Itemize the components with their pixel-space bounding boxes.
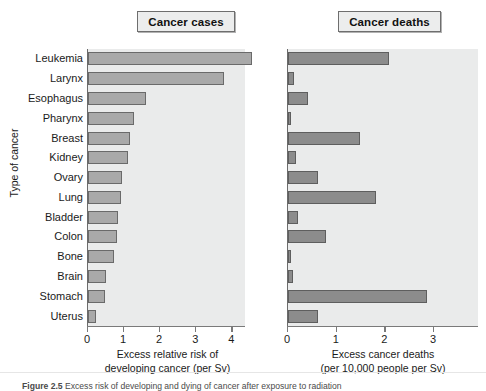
category-label-kidney: Kidney — [0, 151, 83, 164]
plot-area-cancer-deaths — [287, 49, 478, 326]
figure-caption-label: Figure 2.5 — [22, 381, 63, 391]
category-label-lung: Lung — [0, 191, 83, 204]
x-axis-title-deaths-line1: Excess cancer deaths — [283, 348, 483, 362]
category-label-leukemia: Leukemia — [0, 52, 83, 65]
bar-pharynx — [288, 112, 291, 125]
bar-pharynx — [88, 112, 134, 125]
figure-radiation-cancer-risk: Cancer cases Cancer deaths Type of cance… — [0, 0, 486, 391]
x-tick-label-3: 3 — [185, 333, 205, 346]
x-tick-label-0: 0 — [77, 333, 97, 346]
category-label-esophagus: Esophagus — [0, 92, 83, 105]
bar-breast — [88, 132, 130, 145]
x-tick-mark-0 — [87, 327, 88, 332]
x-tick-label-1: 1 — [326, 333, 346, 346]
x-tick-mark-4 — [231, 327, 232, 332]
bar-stomach — [288, 290, 427, 303]
bar-stomach — [88, 290, 105, 303]
category-label-pharynx: Pharynx — [0, 112, 83, 125]
x-tick-label-4: 4 — [221, 333, 241, 346]
x-tick-mark-1 — [123, 327, 124, 332]
bar-larynx — [88, 72, 224, 85]
category-label-bladder: Bladder — [0, 211, 83, 224]
category-label-stomach: Stomach — [0, 290, 83, 303]
category-label-bone: Bone — [0, 250, 83, 263]
x-tick-mark-0 — [287, 327, 288, 332]
bar-bladder — [88, 211, 118, 224]
panel-title-cancer-cases: Cancer cases — [137, 11, 235, 32]
x-axis-title-cases: Excess relative risk of developing cance… — [80, 348, 255, 375]
x-tick-mark-2 — [384, 327, 385, 332]
bar-brain — [88, 270, 106, 283]
x-axis-ticks-deaths: 0123 — [287, 327, 478, 347]
x-tick-mark-2 — [159, 327, 160, 332]
bar-colon — [88, 230, 117, 243]
category-label-list: LeukemiaLarynxEsophagusPharynxBreastKidn… — [0, 49, 83, 326]
x-axis-title-cases-line1: Excess relative risk of — [80, 348, 255, 362]
bar-leukemia — [288, 52, 389, 65]
category-label-brain: Brain — [0, 270, 83, 283]
x-tick-mark-3 — [433, 327, 434, 332]
y-axis-spine-deaths — [287, 49, 288, 326]
x-tick-label-2: 2 — [374, 333, 394, 346]
bar-lung — [288, 191, 376, 204]
bar-colon — [288, 230, 326, 243]
category-label-larynx: Larynx — [0, 72, 83, 85]
bar-ovary — [88, 171, 122, 184]
figure-caption-text: Excess risk of developing and dying of c… — [65, 381, 342, 391]
bar-uterus — [88, 310, 96, 323]
category-label-breast: Breast — [0, 132, 83, 145]
bar-brain — [288, 270, 293, 283]
bar-bone — [288, 250, 291, 263]
caption-divider — [0, 372, 486, 373]
bar-larynx — [288, 72, 294, 85]
bar-breast — [288, 132, 360, 145]
x-tick-label-3: 3 — [423, 333, 443, 346]
category-label-uterus: Uterus — [0, 310, 83, 323]
plot-area-cancer-cases — [87, 49, 245, 326]
bar-kidney — [288, 151, 296, 164]
y-axis-spine-cases — [87, 49, 88, 326]
x-tick-mark-1 — [336, 327, 337, 332]
bar-uterus — [288, 310, 318, 323]
x-tick-label-0: 0 — [277, 333, 297, 346]
bar-leukemia — [88, 52, 252, 65]
bar-lung — [88, 191, 121, 204]
x-tick-label-1: 1 — [113, 333, 133, 346]
panel-title-cancer-deaths: Cancer deaths — [338, 11, 441, 32]
category-label-colon: Colon — [0, 230, 83, 243]
category-label-ovary: Ovary — [0, 171, 83, 184]
bar-bladder — [288, 211, 298, 224]
bar-bone — [88, 250, 114, 263]
bar-kidney — [88, 151, 128, 164]
bar-esophagus — [288, 92, 308, 105]
figure-caption: Figure 2.5 Excess risk of developing and… — [22, 381, 472, 391]
x-axis-ticks-cases: 01234 — [87, 327, 245, 347]
bar-esophagus — [88, 92, 146, 105]
x-tick-mark-3 — [195, 327, 196, 332]
x-tick-label-2: 2 — [149, 333, 169, 346]
x-axis-title-deaths: Excess cancer deaths (per 10,000 people … — [283, 348, 483, 375]
bar-ovary — [288, 171, 318, 184]
